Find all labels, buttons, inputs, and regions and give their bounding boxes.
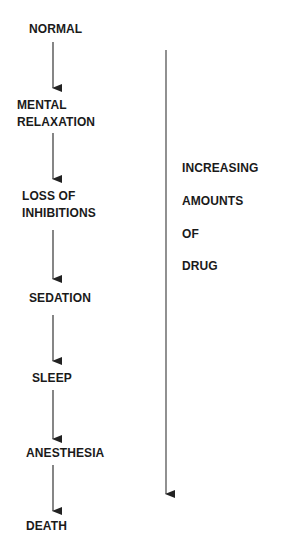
side-label-amounts: AMOUNTS <box>182 193 243 210</box>
stage-mental-relaxation-line2: RELAXATION <box>17 114 95 131</box>
stage-loss-of-inhibitions-line2: INHIBITIONS <box>22 205 96 222</box>
stage-anesthesia: ANESTHESIA <box>26 445 104 462</box>
arrows-layer <box>0 0 284 549</box>
stage-loss-of-inhibitions: LOSS OF INHIBITIONS <box>22 188 96 222</box>
side-label-increasing: INCREASING <box>182 160 258 177</box>
stage-loss-of-inhibitions-line1: LOSS OF <box>22 188 96 205</box>
side-label-drug: DRUG <box>182 258 218 275</box>
stage-mental-relaxation-line1: MENTAL <box>17 97 95 114</box>
stage-sleep: SLEEP <box>32 370 72 387</box>
stage-normal: NORMAL <box>29 21 82 38</box>
stage-sedation: SEDATION <box>29 290 91 307</box>
stage-death: DEATH <box>26 518 67 535</box>
stage-mental-relaxation: MENTAL RELAXATION <box>17 97 95 131</box>
side-label-of: OF <box>182 226 199 243</box>
